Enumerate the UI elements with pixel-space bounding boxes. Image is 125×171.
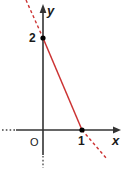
plot-line-dashed-lower: [82, 130, 107, 159]
tick-label-y-2: 2: [29, 32, 36, 44]
coordinate-plane-svg: [0, 0, 125, 171]
tick-label-x-1: 1: [78, 135, 85, 147]
point-marker-x-intercept: [79, 127, 84, 132]
x-axis-label: x: [112, 134, 119, 147]
origin-label: O: [30, 137, 39, 148]
plot-line-solid: [43, 38, 82, 130]
y-axis-label: y: [47, 4, 54, 17]
y-axis-arrow-icon: [40, 4, 47, 13]
graph-figure: y x 2 1 O: [0, 0, 125, 171]
point-marker-y-intercept: [40, 35, 45, 40]
